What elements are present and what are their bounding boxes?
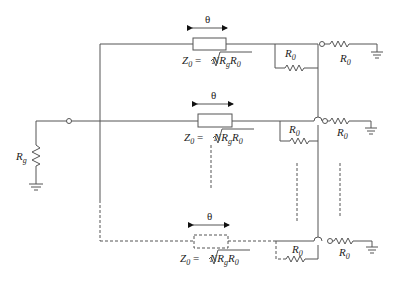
transmission-line-box [194, 235, 228, 248]
branch-1: θ Z0 = NRgR0 R0 R0 [100, 13, 383, 71]
svg-text:R0: R0 [291, 243, 303, 258]
ground-icon [365, 128, 377, 134]
ground-icon [371, 52, 383, 58]
theta-label: θ [207, 210, 212, 222]
svg-text:R0: R0 [284, 47, 296, 62]
source-resistor-label: Rg [15, 150, 27, 165]
svg-text:R0: R0 [288, 123, 300, 138]
impedance-label: Z0 = NRgR0 [182, 54, 241, 69]
source-network: Rg [15, 119, 72, 191]
theta-label: θ [205, 13, 210, 25]
transmission-line-box [193, 38, 226, 50]
impedance-label: Z0 = NRgR0 [184, 131, 243, 146]
ground-icon [29, 184, 43, 190]
branch-N: θ Z0 = NRgR0 R0 R0 [100, 210, 378, 267]
transmission-line-box [198, 114, 232, 127]
theta-label: θ [211, 89, 216, 101]
ground-icon [366, 247, 378, 253]
svg-text:R0: R0 [336, 126, 348, 141]
branch-2: θ Z0 = NRgR0 R0 R0 [184, 89, 377, 146]
svg-text:R0: R0 [338, 246, 350, 261]
circuit-diagram: Rg θ Z0 = NRgR0 R0 R0 θ Z0 = NRgR0 R0 [0, 0, 398, 284]
impedance-label: Z0 = NRgR0 [180, 252, 239, 267]
svg-text:R0: R0 [339, 52, 351, 67]
